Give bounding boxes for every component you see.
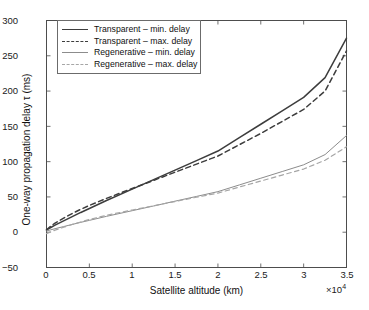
x-axis-exponent-base: ×10 — [326, 284, 342, 295]
x-tick-label: 0 — [26, 270, 66, 280]
x-tick-label: 3.5 — [327, 270, 367, 280]
x-tick-label: 2 — [198, 270, 238, 280]
legend-item-label: Regenerative – max. delay — [94, 60, 197, 69]
y-axis-label: One-way propagation delay τ (ms) — [21, 50, 32, 250]
y-tick-label: 250 — [0, 51, 18, 61]
x-axis-exponent-power: 4 — [342, 283, 346, 290]
y-tick-label: 100 — [0, 157, 18, 167]
legend-item[interactable]: Transparent – min. delay — [61, 24, 196, 36]
y-tick-label: 200 — [0, 86, 18, 96]
legend-item-label: Transparent – max. delay — [94, 37, 192, 46]
legend-item[interactable]: Regenerative – max. delay — [61, 59, 196, 71]
figure: 300 250 200 150 100 50 0 −50 0 0.5 1 1.5… — [0, 0, 369, 310]
legend-item[interactable]: Transparent – max. delay — [61, 36, 196, 48]
y-tick-label: −50 — [0, 263, 18, 273]
legend-item[interactable]: Regenerative – min. delay — [61, 47, 196, 59]
legend-swatch-solid-dark — [61, 24, 89, 35]
x-axis-label: Satellite altitude (km) — [46, 285, 347, 296]
y-tick-label: 50 — [0, 192, 18, 202]
x-axis-exponent: ×104 — [326, 283, 346, 295]
legend-item-label: Regenerative – min. delay — [94, 48, 195, 57]
legend-swatch-dashed-dark — [61, 36, 89, 47]
x-tick-label: 3 — [284, 270, 324, 280]
y-tick-label: 300 — [0, 16, 18, 26]
x-tick-label: 0.5 — [69, 270, 109, 280]
x-tick-label: 1.5 — [155, 270, 195, 280]
legend: Transparent – min. delay Transparent – m… — [57, 20, 201, 74]
y-tick-label: 0 — [0, 227, 18, 237]
legend-swatch-dashed-light — [61, 59, 89, 70]
x-tick-label: 2.5 — [241, 270, 281, 280]
legend-swatch-solid-light — [61, 47, 89, 58]
y-tick-label: 150 — [0, 122, 18, 132]
legend-item-label: Transparent – min. delay — [94, 25, 190, 34]
x-tick-label: 1 — [112, 270, 152, 280]
